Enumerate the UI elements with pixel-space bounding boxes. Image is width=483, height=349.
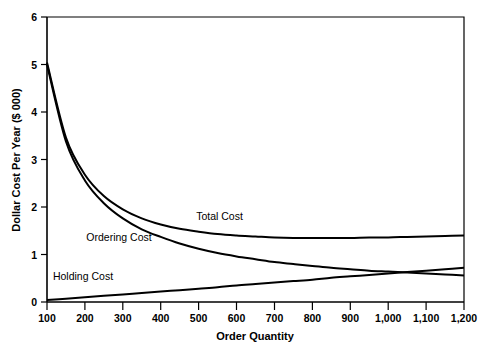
x-tick-label: 200 [76,312,94,324]
y-tick-marks [41,17,47,302]
series-line-total-cost [47,63,464,238]
x-tick-label: 900 [342,312,360,324]
y-tick-label: 3 [31,154,37,166]
x-axis-title: Order Quantity [216,330,295,342]
x-tick-label: 400 [152,312,170,324]
y-tick-label: 6 [31,11,37,23]
x-tick-marks [47,302,464,310]
chart-screen: 0 1 2 3 4 5 6 100 200 300 [0,0,483,349]
y-tick-label: 5 [31,59,37,71]
x-tick-label: 700 [266,312,284,324]
series-label-ordering-cost: Ordering Cost [86,231,151,243]
x-tick-label: 500 [190,312,208,324]
x-tick-label: 1,000 [375,312,401,324]
series-label-total-cost: Total Cost [196,210,243,222]
x-tick-label: 300 [114,312,132,324]
y-tick-labels: 0 1 2 3 4 5 6 [31,11,37,308]
x-tick-label: 100 [38,312,56,324]
x-tick-labels: 100 200 300 400 500 600 700 800 900 1,00… [38,312,477,324]
y-tick-label: 4 [31,106,37,118]
y-tick-label: 1 [31,249,37,261]
x-tick-label: 800 [304,312,322,324]
series-line-ordering-cost [47,65,464,276]
y-tick-label: 2 [31,201,37,213]
x-tick-label: 1,100 [413,312,439,324]
x-tick-label: 600 [228,312,246,324]
y-axis-title: Dollar Cost Per Year ($ 000) [10,88,22,232]
series-label-holding-cost: Holding Cost [53,270,113,282]
x-tick-label: 1,200 [451,312,477,324]
y-tick-label: 0 [31,296,37,308]
eoq-cost-chart: 0 1 2 3 4 5 6 100 200 300 [0,0,483,349]
